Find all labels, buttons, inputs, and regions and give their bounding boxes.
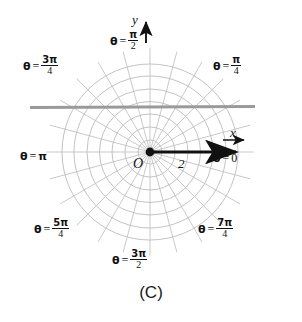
origin-dot bbox=[146, 148, 155, 157]
origin-label: O bbox=[133, 157, 143, 171]
x-axis-label: x bbox=[230, 126, 236, 139]
theta-symbol: θ bbox=[110, 35, 118, 48]
equals-sign: = bbox=[120, 253, 131, 267]
angle-label-theta-3pi-4: θ=3π4 bbox=[23, 55, 58, 77]
angle-label-theta-3pi-2: θ=3π2 bbox=[112, 249, 147, 271]
angle-label-theta-5pi-4: θ=5π4 bbox=[34, 218, 69, 240]
angle-label-theta-pi-4: θ=π4 bbox=[213, 55, 241, 77]
theta-symbol: θ bbox=[34, 223, 42, 236]
theta-symbol: θ bbox=[20, 150, 28, 163]
theta-symbol: θ bbox=[198, 223, 206, 236]
fraction-3pi-over-2: 3π2 bbox=[130, 249, 147, 271]
equals-sign: = bbox=[118, 34, 129, 48]
theta-symbol: θ bbox=[213, 152, 221, 165]
angle-label-theta-0: θ=0 bbox=[213, 152, 237, 164]
equals-sign: = bbox=[221, 59, 232, 73]
gray-horizontal-line bbox=[30, 107, 255, 108]
y-axis-label: y bbox=[132, 13, 138, 26]
fraction-pi-over-4: π4 bbox=[231, 55, 241, 77]
fraction-3pi-over-4: 3π4 bbox=[41, 55, 58, 77]
equals-sign: = bbox=[206, 222, 217, 236]
fraction-5pi-over-4: 5π4 bbox=[52, 218, 69, 240]
polar-coordinate-figure: y x O 2 θ=π2 θ=π4 θ=3π4 θ=π θ=0 θ=5π4 θ=… bbox=[0, 0, 302, 322]
angle-value-zero: 0 bbox=[231, 151, 237, 165]
angle-label-theta-7pi-4: θ=7π4 bbox=[198, 218, 233, 240]
fraction-pi-over-2: π2 bbox=[128, 30, 138, 52]
equals-sign: = bbox=[31, 59, 42, 73]
angle-label-theta-pi-2: θ=π2 bbox=[110, 30, 138, 52]
angle-label-theta-pi: θ=π bbox=[20, 150, 47, 162]
figure-caption: (C) bbox=[0, 283, 302, 303]
theta-symbol: θ bbox=[23, 60, 31, 73]
fraction-7pi-over-4: 7π4 bbox=[216, 218, 233, 240]
theta-symbol: θ bbox=[112, 254, 120, 267]
radial-tick-label-2: 2 bbox=[178, 157, 185, 170]
pi-symbol: π bbox=[38, 150, 47, 163]
equals-sign: = bbox=[221, 151, 232, 165]
equals-sign: = bbox=[42, 222, 53, 236]
theta-symbol: θ bbox=[213, 60, 221, 73]
equals-sign: = bbox=[28, 149, 39, 163]
